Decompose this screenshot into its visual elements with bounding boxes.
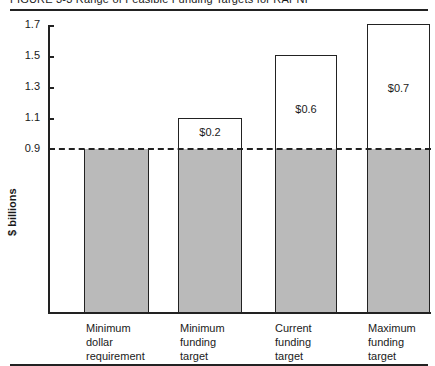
y-tick-label: 1.1 [10, 111, 40, 123]
bar-outline [178, 149, 242, 312]
y-tick-1-7 [48, 25, 54, 27]
bottom-rule [10, 364, 428, 366]
bar-outline [367, 149, 430, 312]
bar-outline [275, 149, 337, 312]
x-axis-baseline [48, 312, 431, 314]
x-category-label: Minimum dollar requirement [86, 321, 145, 363]
bar-value-label: $0.7 [367, 82, 430, 94]
x-category-label: Maximum funding target [368, 321, 416, 363]
y-tick-1-5 [48, 56, 54, 58]
y-tick-1-3 [48, 87, 54, 89]
bar-value-label: $0.2 [178, 126, 242, 138]
y-axis [48, 25, 50, 313]
bar-value-label: $0.6 [275, 103, 337, 115]
bar-outline [84, 149, 149, 312]
top-rule [10, 9, 428, 11]
y-tick-label: 0.9 [10, 142, 40, 154]
x-category-label: Minimum funding target [180, 321, 225, 363]
reference-line-0-9 [49, 148, 431, 150]
y-tick-label: 1.5 [10, 49, 40, 61]
y-tick-label: 1.3 [10, 80, 40, 92]
y-tick-label: 1.7 [10, 18, 40, 30]
x-category-label: Current funding target [275, 321, 312, 363]
y-tick-1-1 [48, 118, 54, 120]
figure-title: FIGURE 3-3 Range of Feasible Funding Tar… [10, 0, 312, 5]
y-axis-label: $ billions [6, 188, 18, 236]
bar-increment [275, 55, 337, 149]
